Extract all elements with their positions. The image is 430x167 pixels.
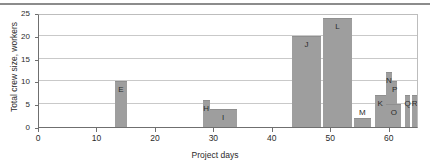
- y-axis-title: Total crew size, workers: [9, 7, 19, 127]
- x-tick-label-0: 0: [26, 134, 50, 143]
- bar-label-M: M: [350, 108, 374, 117]
- plot-area: EHIJLMKNPOQR: [38, 14, 418, 128]
- bar-L: [323, 18, 352, 127]
- x-tick-label-10: 10: [84, 134, 108, 143]
- gridline-y-5: [39, 103, 417, 104]
- x-tick-mark-50: [330, 128, 331, 132]
- y-tick-mark-25: [35, 14, 38, 15]
- x-axis-title: Project days: [0, 150, 430, 160]
- x-tick-mark-60: [389, 128, 390, 132]
- bar-M: [354, 118, 372, 127]
- x-tick-label-40: 40: [260, 134, 284, 143]
- gridline-y-10: [39, 80, 417, 81]
- x-tick-mark-0: [38, 128, 39, 132]
- bar-label-H: H: [194, 104, 218, 113]
- y-tick-mark-15: [35, 60, 38, 61]
- bar-label-P: P: [383, 85, 407, 94]
- x-tick-mark-10: [96, 128, 97, 132]
- x-tick-label-50: 50: [318, 134, 342, 143]
- bar-label-O: O: [382, 108, 406, 117]
- bar-label-L: L: [325, 22, 349, 31]
- bar-label-K: K: [368, 99, 392, 108]
- gridline-y-20: [39, 35, 417, 36]
- x-tick-mark-20: [155, 128, 156, 132]
- y-tick-mark-20: [35, 37, 38, 38]
- x-tick-label-60: 60: [377, 134, 401, 143]
- bar-label-I: I: [211, 113, 235, 122]
- bar-label-N: N: [377, 76, 401, 85]
- x-tick-label-20: 20: [143, 134, 167, 143]
- gridline-y-15: [39, 58, 417, 59]
- x-tick-mark-40: [272, 128, 273, 132]
- y-tick-mark-10: [35, 82, 38, 83]
- x-tick-mark-30: [213, 128, 214, 132]
- bar-label-E: E: [109, 85, 133, 94]
- y-tick-mark-5: [35, 105, 38, 106]
- top-divider-rule: [0, 3, 430, 5]
- bar-J: [292, 36, 321, 127]
- x-tick-label-30: 30: [201, 134, 225, 143]
- chart-root: EHIJLMKNPOQR 0510152025 Total crew size,…: [0, 0, 430, 167]
- bar-label-J: J: [294, 40, 318, 49]
- bar-label-R: R: [403, 99, 418, 108]
